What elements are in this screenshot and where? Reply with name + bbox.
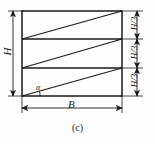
- diagonal-band-1: [22, 11, 122, 39]
- label-band-height-3: H/3: [130, 74, 139, 88]
- label-band-height-1: H/3: [130, 17, 139, 31]
- diagonal-band-2: [22, 39, 122, 68]
- label-total-width-B: B: [68, 99, 75, 110]
- label-total-height-H: H: [2, 48, 13, 56]
- figure-container: H H/3 H/3 H/3 B α (c): [0, 0, 155, 144]
- figure-caption: (c): [0, 122, 155, 133]
- label-band-height-2: H/3: [130, 46, 139, 60]
- label-angle-alpha: α: [36, 84, 40, 92]
